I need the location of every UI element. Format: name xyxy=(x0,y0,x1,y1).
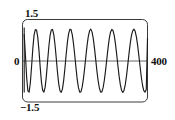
y-axis-min-label: −1.5 xyxy=(20,102,39,113)
y-axis-max-label: 1.5 xyxy=(25,8,38,19)
y-axis-zero-label: 0 xyxy=(14,56,19,67)
x-axis-max-label: 400 xyxy=(151,56,167,67)
waveform-figure: 1.5 0 −1.5 400 xyxy=(0,0,175,120)
